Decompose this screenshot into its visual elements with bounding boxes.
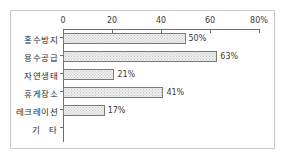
bar-value-label: 50%: [189, 32, 207, 45]
category-label: 기 타: [32, 123, 58, 137]
x-axis-tick-label: 20: [107, 16, 117, 26]
category-axis-tick: [60, 127, 64, 128]
plot-area: 020406080% 홍수방지50%용수공급63%자연생태21%휴게장소41%레…: [63, 29, 259, 142]
category-label: 자연생태: [24, 69, 58, 83]
bar: [63, 51, 217, 62]
bar-row: 용수공급63%: [63, 49, 259, 67]
bar-row: 휴게장소41%: [63, 85, 259, 103]
x-axis-tick: [259, 29, 260, 33]
category-label: 휴게장소: [24, 87, 58, 101]
x-axis-tick-label: 40: [156, 16, 166, 26]
category-label: 레크레이션: [16, 105, 59, 119]
bar-value-label: 21%: [117, 68, 135, 81]
category-label: 용수공급: [24, 51, 58, 65]
bar: [63, 87, 163, 98]
bar: [63, 105, 105, 116]
bar-value-label: 41%: [166, 86, 184, 99]
bar-row: 기 타: [63, 121, 259, 139]
bar: [63, 33, 186, 44]
bar-value-label: 17%: [108, 104, 126, 117]
chart-frame: 020406080% 홍수방지50%용수공급63%자연생태21%휴게장소41%레…: [10, 10, 275, 149]
bar: [63, 69, 114, 80]
x-axis-tick-label: 60: [205, 16, 215, 26]
bar-row: 홍수방지50%: [63, 31, 259, 49]
x-axis-tick-label: 0: [60, 16, 65, 26]
category-label: 홍수방지: [24, 33, 58, 47]
bar-row: 자연생태21%: [63, 67, 259, 85]
bar-row: 레크레이션17%: [63, 103, 259, 121]
x-axis-tick-label: 80%: [250, 16, 268, 26]
bar-value-label: 63%: [220, 50, 238, 63]
